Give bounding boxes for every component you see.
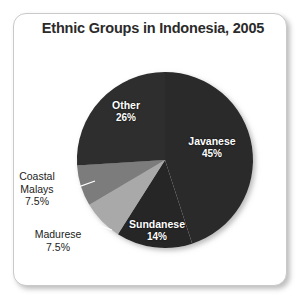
pie-label-javanese-value: 45% <box>176 148 248 161</box>
pie-label-coastal-malays-name-line2: Malays <box>20 183 53 195</box>
pie-label-sundanese-name: Sundanese <box>129 218 185 230</box>
pie-chart <box>0 0 306 307</box>
pie-label-coastal-malays-value: 7.5% <box>6 195 68 208</box>
pie-label-madurese-name: Madurese <box>35 228 82 240</box>
pie-label-madurese: Madurese 7.5% <box>19 228 97 253</box>
pie-label-other: Other 26% <box>93 99 159 124</box>
pie-chart-svg <box>0 0 306 307</box>
pie-label-javanese-name: Javanese <box>188 135 235 147</box>
pie-label-sundanese: Sundanese 14% <box>117 218 197 243</box>
pie-label-madurese-value: 7.5% <box>19 241 97 254</box>
pie-label-other-value: 26% <box>93 112 159 125</box>
pie-label-sundanese-value: 14% <box>117 231 197 244</box>
pie-label-other-name: Other <box>112 99 140 111</box>
pie-label-coastal-malays-name-line1: Coastal <box>19 170 55 182</box>
pie-label-coastal-malays: Coastal Malays 7.5% <box>6 170 68 208</box>
pie-label-javanese: Javanese 45% <box>176 135 248 160</box>
chart-page: Ethnic Groups in Indonesia, 2005 <box>0 0 306 307</box>
